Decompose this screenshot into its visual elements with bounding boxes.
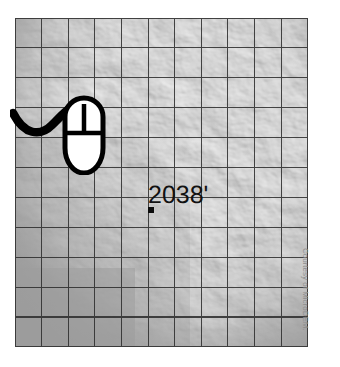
elevation-value-label: 2038' <box>148 183 208 208</box>
screenshot-root: 2038' Courtesy of MicroDEM. <box>0 0 340 367</box>
image-credit-text: Courtesy of MicroDEM. <box>298 248 312 348</box>
computer-mouse-icon <box>10 95 108 175</box>
elevation-point-marker[interactable] <box>148 207 154 213</box>
